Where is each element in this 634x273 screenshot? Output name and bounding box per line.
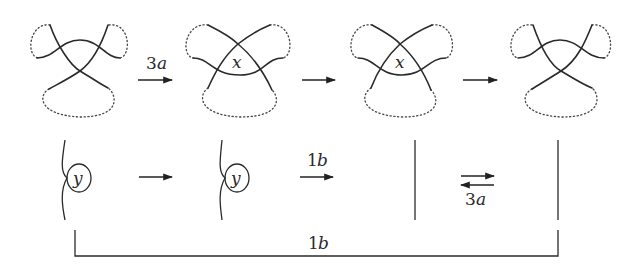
dotted-loop-right — [109, 25, 127, 58]
arrow-label-num: 3 — [146, 53, 157, 73]
bracket-move-1b: 1 b — [75, 230, 558, 256]
strand-arc — [518, 40, 604, 58]
bracket-label-var: b — [318, 233, 329, 253]
strand-diagonal-a — [50, 25, 108, 88]
circle-label-y: y — [72, 168, 83, 188]
strand-arc — [37, 40, 120, 58]
move-arrow-1b: 1 b — [300, 150, 333, 177]
dotted-loop-left — [351, 25, 372, 58]
dotted-loop-left — [186, 25, 208, 58]
vertical-strand — [62, 140, 67, 220]
knot-diagram-1 — [31, 25, 128, 117]
dotted-loop-bottom — [365, 88, 436, 117]
arrow-label-var: b — [317, 150, 328, 170]
move-arrow-3a-bidirectional: 3 a — [461, 176, 494, 209]
region-label-x: x — [232, 52, 242, 72]
knot-diagram-4 — [511, 25, 611, 117]
dotted-loop-left — [31, 25, 50, 58]
arrow-label-num: 3 — [465, 189, 476, 209]
arrow-label-var: a — [157, 53, 167, 73]
dotted-loop-right — [270, 25, 290, 58]
circle-label-y: y — [230, 168, 241, 188]
strand-panel-2: y — [220, 140, 249, 220]
strand-diagonal-b — [49, 25, 108, 89]
dotted-loop-bottom — [203, 88, 277, 117]
region-label-x: x — [395, 52, 405, 72]
arrow-label-var: a — [476, 189, 486, 209]
dotted-loop-left — [511, 25, 532, 58]
knot-move-diagram: 3 a x x y — [0, 0, 634, 273]
knot-diagram-3: x — [351, 25, 453, 117]
knot-diagram-2: x — [186, 25, 290, 117]
vertical-strand — [220, 140, 225, 220]
strand-panel-1: y — [62, 140, 91, 220]
dotted-loop-right — [592, 25, 611, 58]
dotted-loop-bottom — [43, 88, 114, 117]
dotted-loop-bottom — [525, 88, 597, 117]
strand-diagonal-b — [532, 25, 592, 89]
move-arrow-3a-top: 3 a — [138, 53, 172, 80]
strand-diagonal-a — [533, 25, 592, 88]
dotted-loop-right — [432, 25, 452, 58]
